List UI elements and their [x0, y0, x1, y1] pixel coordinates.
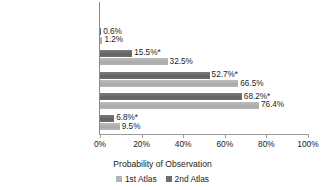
chart-container: Hudson Bay LowlandsNorthern Shield0.6%1.…: [0, 0, 325, 190]
x-axis-tick-label: 40%: [175, 139, 192, 149]
bar-value-label: 1.2%: [104, 36, 123, 44]
bar-value-label: 15.5%*: [134, 49, 160, 57]
bar-group: Lake Simcoe-Rideau52.7%*66.5%: [100, 69, 308, 91]
x-axis-tick: [100, 134, 101, 138]
bar-value-label: 32.5%: [170, 58, 193, 66]
x-axis-tick-label: 20%: [133, 139, 150, 149]
chart-legend: 1st Atlas 2nd Atlas: [0, 174, 325, 184]
bar-1st-atlas[interactable]: [100, 80, 238, 87]
x-axis-tick: [183, 134, 184, 138]
bar-1st-atlas[interactable]: [100, 37, 102, 44]
x-axis-tick-label: 0%: [94, 139, 106, 149]
bar-group: Hudson Bay Lowlands: [100, 4, 308, 26]
bar-1st-atlas[interactable]: [100, 58, 168, 65]
bar-group: Southern Shield15.5%*32.5%: [100, 47, 308, 69]
legend-item-1st-atlas[interactable]: 1st Atlas: [116, 174, 157, 184]
legend-swatch-1st-atlas-icon: [116, 176, 122, 182]
legend-item-2nd-atlas[interactable]: 2nd Atlas: [166, 174, 209, 184]
x-axis-tick-label: 100%: [297, 139, 318, 149]
x-axis-tick: [142, 134, 143, 138]
x-axis-tick: [225, 134, 226, 138]
bar-value-label: 76.4%: [261, 101, 284, 109]
x-axis-tick: [308, 134, 309, 138]
x-axis-tick-label: 80%: [258, 139, 275, 149]
bar-1st-atlas[interactable]: [100, 102, 259, 109]
legend-label-1st-atlas: 1st Atlas: [125, 174, 157, 184]
bar-2nd-atlas[interactable]: [100, 50, 132, 57]
x-axis-tick: [266, 134, 267, 138]
bar-value-label: 9.5%: [122, 123, 141, 131]
bar-group: Carolinian68.2%*76.4%: [100, 91, 308, 113]
bar-group: Ontario6.8%*9.5%: [100, 112, 308, 134]
bar-group: Northern Shield0.6%1.2%: [100, 26, 308, 48]
bar-2nd-atlas[interactable]: [100, 28, 101, 35]
x-axis-title: Probability of Observation: [0, 159, 325, 169]
bar-2nd-atlas[interactable]: [100, 93, 242, 100]
bar-2nd-atlas[interactable]: [100, 72, 210, 79]
bar-1st-atlas[interactable]: [100, 123, 120, 130]
legend-swatch-2nd-atlas-icon: [166, 176, 172, 182]
legend-label-2nd-atlas: 2nd Atlas: [175, 174, 209, 184]
bar-value-label: 52.7%*: [212, 71, 238, 79]
x-axis-tick-label: 60%: [216, 139, 233, 149]
bar-2nd-atlas[interactable]: [100, 115, 114, 122]
x-axis-line: [99, 134, 309, 135]
bar-value-label: 66.5%: [240, 80, 263, 88]
